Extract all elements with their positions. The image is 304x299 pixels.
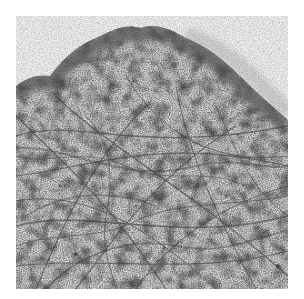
micrograph-texture bbox=[16, 16, 288, 289]
micrograph bbox=[16, 16, 288, 289]
